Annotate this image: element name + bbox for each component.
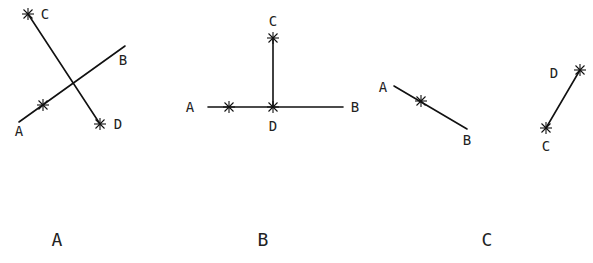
star-marker-ad — [223, 101, 235, 113]
star-marker-ab — [37, 99, 49, 111]
star-marker-c — [22, 8, 34, 20]
star-marker-c — [267, 32, 279, 44]
star-marker-ab — [415, 95, 427, 107]
point-label-a: A — [186, 99, 195, 115]
segment-ab — [19, 46, 125, 122]
point-label-c: C — [542, 138, 550, 154]
panel-caption-a: A — [52, 229, 63, 250]
point-label-c: C — [269, 13, 277, 29]
segment-ab — [394, 86, 467, 129]
point-label-c: C — [41, 6, 49, 22]
star-marker-d — [574, 64, 586, 76]
point-label-a: A — [379, 79, 388, 95]
point-label-d: D — [550, 65, 558, 81]
panel-a: C B A D — [15, 6, 127, 139]
point-label-b: B — [463, 132, 471, 148]
point-label-b: B — [351, 99, 359, 115]
diagram-canvas: C B A D C A B D A B D C A B C — [0, 0, 593, 263]
point-label-d: D — [269, 118, 277, 134]
point-label-b: B — [119, 52, 127, 68]
point-label-a: A — [15, 123, 24, 139]
point-label-d: D — [114, 116, 122, 132]
star-marker-d — [94, 118, 106, 130]
panel-c: A B D C — [379, 64, 586, 154]
star-marker-c — [540, 122, 552, 134]
panel-b: C A B D — [186, 13, 359, 134]
star-marker-d — [267, 101, 279, 113]
panel-caption-b: B — [258, 229, 269, 250]
panel-caption-c: C — [482, 229, 493, 250]
